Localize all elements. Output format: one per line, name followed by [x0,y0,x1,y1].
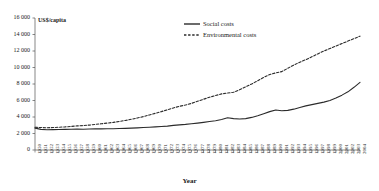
x-axis-tick-label: 1956 [73,144,78,154]
x-axis-tick-label: 1977 [200,144,205,154]
y-axis-tick-label: 4 000 [0,113,30,119]
x-axis-tick-label: 1976 [193,144,198,154]
x-axis-tick-label: 1998 [326,144,331,154]
x-axis-tick-label: 1974 [181,144,186,154]
x-axis-tick-label: 1950 [37,144,42,154]
x-axis-tick-label: 1958 [85,144,90,154]
x-axis-tick-label: 1970 [157,144,162,154]
y-axis-tick-label: 10 000 [0,64,30,70]
x-axis-tick-label: 1982 [230,144,235,154]
x-axis-tick-label: 1990 [278,144,283,154]
x-axis-tick-label: 1985 [248,144,253,154]
x-axis-tick-label: 1951 [43,144,48,154]
x-axis-tick-label: 2004 [362,144,367,154]
legend-label-social-costs: Social costs [203,20,234,27]
y-axis-tick-label: 6 000 [0,97,30,103]
x-axis-tick-label: 1973 [175,144,180,154]
y-axis-label: US$/capita [38,17,66,23]
axes-group [33,18,361,153]
x-axis-tick-label: 1984 [242,144,247,154]
series-line-social-costs [35,82,360,129]
data-series-group [35,36,360,130]
y-axis-tick-label: 12 000 [0,47,30,53]
chart-container: US$/capita 02 0004 0006 0008 00010 00012… [0,0,379,191]
legend-label-environmental-costs: Environmental costs [203,31,256,38]
legend-swatches [184,24,200,35]
x-axis-tick-label: 1953 [55,144,60,154]
x-axis-tick-label: 1965 [127,144,132,154]
x-axis-tick-label: 1962 [109,144,114,154]
x-axis-tick-label: 1996 [314,144,319,154]
x-axis-tick-label: 1989 [272,144,277,154]
x-axis-tick-label: 2002 [350,144,355,154]
y-axis-tick-label: 8 000 [0,80,30,86]
x-axis-tick-label: 1964 [121,144,126,154]
x-axis-tick-label: 2001 [344,144,349,154]
x-axis-tick-label: 1978 [206,144,211,154]
y-axis-ticks [33,18,36,150]
x-axis-tick-label: 1992 [290,144,295,154]
x-axis-tick-label: 1986 [254,144,259,154]
x-axis-tick-label: 1963 [115,144,120,154]
x-axis-tick-label: 1968 [145,144,150,154]
x-axis-tick-label: 1952 [49,144,54,154]
x-axis-tick-label: 1980 [218,144,223,154]
x-axis-tick-label: 1983 [236,144,241,154]
x-axis-tick-label: 1969 [151,144,156,154]
series-line-environmental-costs [35,36,360,128]
x-axis-tick-label: 1975 [187,144,192,154]
chart-plot-area [0,0,379,191]
x-axis-tick-label: 1991 [284,144,289,154]
x-axis-tick-label: 1971 [163,144,168,154]
x-axis-tick-label: 2003 [356,144,361,154]
x-axis-tick-label: 1961 [103,144,108,154]
x-axis-tick-label: 1967 [139,144,144,154]
x-axis-tick-label: 1993 [296,144,301,154]
x-axis-tick-label: 1987 [260,144,265,154]
y-axis-tick-label: 16 000 [0,14,30,20]
x-axis-tick-label: 1999 [332,144,337,154]
y-axis-tick-label: 14 000 [0,31,30,37]
x-axis-tick-label: 1960 [97,144,102,154]
y-axis-tick-label: 2 000 [0,130,30,136]
x-axis-tick-label: 1995 [308,144,313,154]
x-axis-tick-label: 1954 [61,144,66,154]
x-axis-tick-label: 1979 [212,144,217,154]
x-axis-tick-label: 1957 [79,144,84,154]
x-axis-tick-label: 1966 [133,144,138,154]
x-axis-tick-label: 1959 [91,144,96,154]
x-axis-tick-label: 1988 [266,144,271,154]
x-axis-title: Year [0,177,379,185]
x-axis-tick-label: 1997 [320,144,325,154]
x-axis-tick-label: 1955 [67,144,72,154]
x-axis-tick-label: 2000 [338,144,343,154]
y-axis-tick-label: 0 [0,146,30,152]
x-axis-tick-label: 1981 [224,144,229,154]
x-axis-tick-label: 1972 [169,144,174,154]
x-axis-tick-label: 1994 [302,144,307,154]
